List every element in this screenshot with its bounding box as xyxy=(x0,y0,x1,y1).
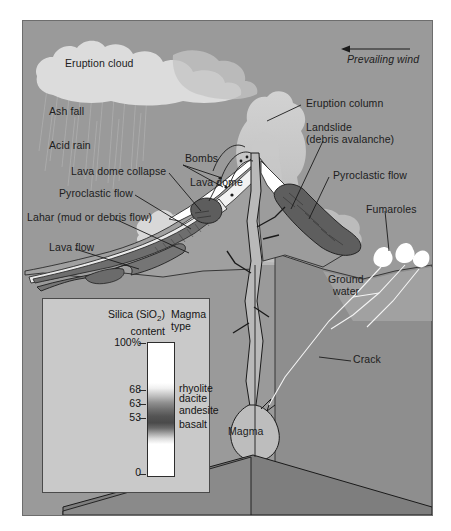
label-eruption-cloud: Eruption cloud xyxy=(65,57,134,69)
label-fumaroles: Fumaroles xyxy=(366,203,417,215)
silica-gradient-bar xyxy=(147,342,175,477)
legend-tick-mark-68 xyxy=(139,390,146,391)
label-lava-flow: Lava flow xyxy=(49,241,94,253)
legend-scale-bottom: 0 xyxy=(81,467,141,478)
legend-magma-header-line1: Magma xyxy=(171,308,206,320)
label-pyroclastic-flow-right: Pyroclastic flow xyxy=(333,169,407,181)
label-ground-water-line2: water xyxy=(333,285,359,297)
label-lava-dome-collapse: Lava dome collapse xyxy=(71,165,166,177)
label-prevailing-wind: Prevailing wind xyxy=(347,53,419,65)
legend-tick-value-68: 68 xyxy=(81,384,141,395)
legend-magma-header: Magma type xyxy=(171,308,221,332)
label-crack: Crack xyxy=(353,353,381,365)
legend-silica-header-paren: ) xyxy=(162,308,166,320)
label-acid-rain: Acid rain xyxy=(49,139,91,151)
figure-canvas: Eruption cloud Ash fall Acid rain Bombs … xyxy=(0,0,451,531)
label-landslide-line1: Landslide xyxy=(306,121,352,133)
legend-magma-header-line2: type xyxy=(171,320,191,332)
diagram-frame: Eruption cloud Ash fall Acid rain Bombs … xyxy=(22,20,433,516)
label-lahar: Lahar (mud or debris flow) xyxy=(27,211,152,223)
label-eruption-column: Eruption column xyxy=(306,97,383,109)
label-bombs: Bombs xyxy=(185,152,218,164)
label-pyroclastic-flow-left: Pyroclastic flow xyxy=(59,187,133,199)
label-ground-water-line1: Ground xyxy=(328,273,364,285)
legend-tick-top xyxy=(139,343,146,344)
legend-silica-header: Silica (SiO2) content xyxy=(53,308,165,337)
legend-panel: Silica (SiO2) content Magma type 100% 0 … xyxy=(42,298,210,493)
legend-magma-type-basalt: basalt xyxy=(179,419,207,430)
legend-tick-bottom xyxy=(139,474,146,475)
legend-magma-type-andesite: andesite xyxy=(179,405,219,416)
lava-dome-shape xyxy=(191,198,222,223)
legend-tick-value-53: 53 xyxy=(81,412,141,423)
legend-tick-mark-63 xyxy=(139,404,146,405)
legend-silica-header-text: Silica (SiO xyxy=(108,308,157,320)
legend-tick-mark-53 xyxy=(139,418,146,419)
legend-scale-top: 100% xyxy=(81,337,141,348)
legend-tick-value-63: 63 xyxy=(81,398,141,409)
label-landslide-line2: (debris avalanche) xyxy=(306,133,394,145)
label-ash-fall: Ash fall xyxy=(49,105,84,117)
label-magma: Magma xyxy=(228,425,264,437)
legend-magma-type-dacite: dacite xyxy=(179,393,207,404)
label-lava-dome: Lava dome xyxy=(190,176,243,188)
